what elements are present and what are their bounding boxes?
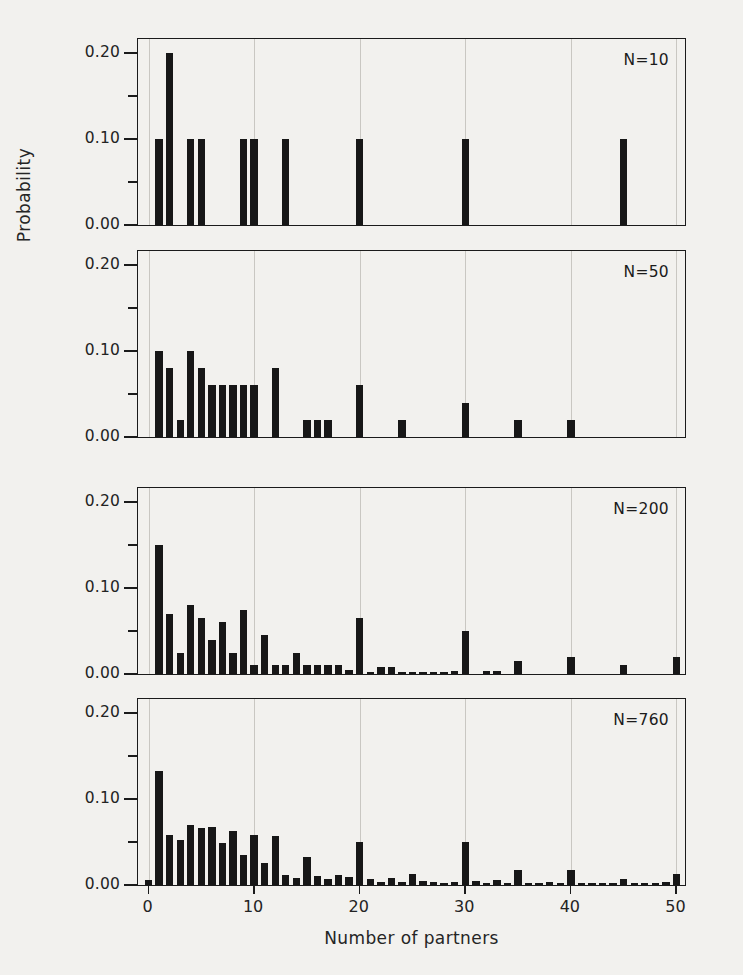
bar xyxy=(451,882,458,885)
bar xyxy=(398,672,405,674)
bar xyxy=(177,840,184,885)
bar xyxy=(451,671,458,674)
bar xyxy=(367,879,374,885)
y-tick-minor xyxy=(128,393,137,395)
bar xyxy=(356,618,363,674)
bar xyxy=(567,657,574,674)
bar xyxy=(166,614,173,674)
bar xyxy=(567,420,574,437)
bar xyxy=(293,653,300,674)
bar xyxy=(398,420,405,437)
bar xyxy=(272,368,279,437)
bar xyxy=(662,882,669,885)
bar xyxy=(462,631,469,674)
x-tick-label-30: 30 xyxy=(439,897,489,916)
y-axis-label: Probability xyxy=(14,85,34,305)
bar xyxy=(208,385,215,437)
x-tick-30 xyxy=(464,886,466,894)
bar xyxy=(599,883,606,885)
bar xyxy=(282,139,289,225)
bar xyxy=(187,825,194,885)
bar xyxy=(219,843,226,885)
x-tick-10 xyxy=(253,886,255,894)
gridline-x-0 xyxy=(149,39,150,225)
bar xyxy=(557,883,564,885)
bar xyxy=(229,653,236,674)
bar xyxy=(261,863,268,885)
gridline-x-0 xyxy=(149,251,150,437)
bar xyxy=(388,878,395,885)
bar xyxy=(229,831,236,885)
bar xyxy=(250,835,257,885)
bar xyxy=(409,672,416,674)
bar xyxy=(535,883,542,885)
bar xyxy=(272,665,279,674)
chart-panel-2: N=50 xyxy=(137,250,686,438)
bar xyxy=(250,385,257,437)
bar xyxy=(324,665,331,674)
bar xyxy=(462,842,469,885)
bar xyxy=(240,139,247,225)
y-tick-label: 0.10 xyxy=(58,578,120,596)
x-tick-label-10: 10 xyxy=(228,897,278,916)
bar xyxy=(145,880,152,885)
y-tick-major xyxy=(124,436,137,438)
x-tick-label-0: 0 xyxy=(123,897,173,916)
bar xyxy=(250,665,257,674)
y-tick-label: 0.20 xyxy=(58,255,120,273)
y-tick-major xyxy=(124,52,137,54)
bar xyxy=(673,874,680,885)
x-tick-40 xyxy=(570,886,572,894)
y-tick-label: 0.20 xyxy=(58,43,120,61)
bar xyxy=(483,883,490,885)
gridline-x-40 xyxy=(571,39,572,225)
bar xyxy=(314,876,321,885)
bar xyxy=(155,139,162,225)
gridline-x-0 xyxy=(149,699,150,885)
bar xyxy=(272,836,279,885)
bar xyxy=(356,842,363,885)
bar xyxy=(324,879,331,885)
bar xyxy=(419,672,426,674)
bar xyxy=(377,882,384,885)
bar xyxy=(303,665,310,674)
bar xyxy=(155,771,162,885)
bar xyxy=(462,139,469,225)
bar xyxy=(198,828,205,885)
x-tick-label-50: 50 xyxy=(650,897,700,916)
y-tick-minor xyxy=(128,755,137,757)
bar xyxy=(631,883,638,885)
y-tick-minor xyxy=(128,630,137,632)
bar xyxy=(187,605,194,674)
bar xyxy=(240,385,247,437)
bar xyxy=(187,139,194,225)
plot-area xyxy=(138,39,685,225)
bar xyxy=(303,857,310,885)
bar xyxy=(250,139,257,225)
bar xyxy=(398,882,405,885)
bar xyxy=(377,667,384,674)
y-tick-major xyxy=(124,350,137,352)
bar xyxy=(282,875,289,885)
bar xyxy=(345,877,352,885)
y-tick-label: 0.00 xyxy=(58,875,120,893)
bar xyxy=(514,420,521,437)
bar xyxy=(240,855,247,885)
y-tick-major xyxy=(124,712,137,714)
y-tick-label: 0.10 xyxy=(58,129,120,147)
plot-area xyxy=(138,488,685,674)
bar xyxy=(240,610,247,674)
bar xyxy=(187,351,194,437)
bar xyxy=(652,883,659,885)
bar xyxy=(430,672,437,674)
bar xyxy=(430,882,437,885)
bar xyxy=(177,653,184,674)
panel-annotation-sample-size: N=200 xyxy=(613,500,669,518)
plot-area xyxy=(138,251,685,437)
bar xyxy=(388,667,395,674)
bar xyxy=(314,420,321,437)
gridline-x-10 xyxy=(254,488,255,674)
y-tick-major xyxy=(124,264,137,266)
chart-panel-3: N=200 xyxy=(137,487,686,675)
gridline-x-40 xyxy=(571,488,572,674)
